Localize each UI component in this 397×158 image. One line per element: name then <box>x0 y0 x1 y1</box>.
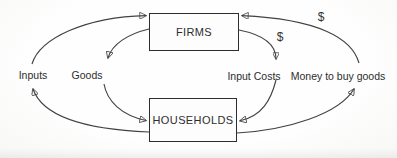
arrow-goods-to-households <box>104 84 146 121</box>
node-firms: FIRMS <box>149 13 239 51</box>
arrow-firms-to-goods <box>108 29 149 58</box>
label-money-to-buy-goods: Money to buy goods <box>291 70 386 82</box>
label-goods: Goods <box>72 69 103 81</box>
node-households-label: HOUSEHOLDS <box>152 114 233 126</box>
label-dollar-outer: $ <box>318 10 325 24</box>
arrow-households-to-money <box>237 89 354 133</box>
arrow-households-to-inputs <box>33 89 149 132</box>
node-households: HOUSEHOLDS <box>149 98 237 142</box>
node-firms-label: FIRMS <box>176 26 212 38</box>
arrow-firms-to-input-costs <box>239 30 276 59</box>
arrow-money-to-firms <box>242 16 359 63</box>
arrow-input-costs-to-households <box>240 80 276 121</box>
arrow-inputs-to-firms <box>32 16 146 64</box>
circular-flow-diagram: FIRMS HOUSEHOLDS Inputs Goods Input Cost… <box>0 0 397 158</box>
label-inputs: Inputs <box>19 69 48 81</box>
label-input-costs: Input Costs <box>227 70 280 82</box>
label-dollar-inner: $ <box>277 30 284 44</box>
